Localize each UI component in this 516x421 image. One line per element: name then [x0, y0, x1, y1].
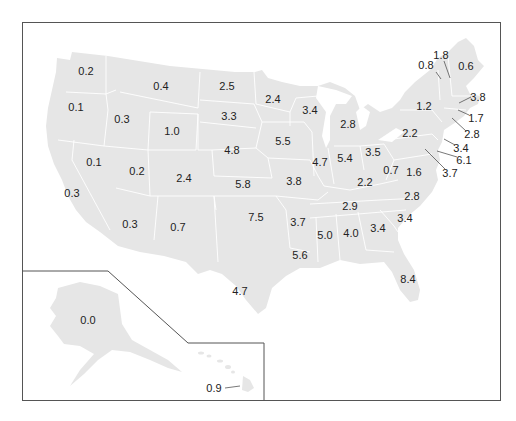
state-label-mt: 0.4 — [153, 81, 168, 92]
alaska-shape — [50, 282, 182, 386]
state-label-pa: 2.2 — [402, 128, 417, 139]
state-label-or: 0.1 — [68, 102, 83, 113]
state-label-la: 5.6 — [292, 250, 307, 261]
state-label-wv: 0.7 — [383, 165, 398, 176]
state-label-va: 1.6 — [406, 167, 421, 178]
state-label-ri: 1.7 — [468, 113, 483, 124]
state-label-ct: 2.8 — [464, 129, 479, 140]
state-label-ga: 3.4 — [370, 223, 385, 234]
state-label-de: 6.1 — [456, 155, 471, 166]
state-label-nv: 0.1 — [86, 157, 101, 168]
state-label-wi: 3.4 — [302, 105, 317, 116]
state-label-az: 0.3 — [122, 219, 137, 230]
state-label-ne: 4.8 — [224, 145, 239, 156]
state-label-ks: 5.8 — [235, 179, 250, 190]
state-label-ky: 2.2 — [357, 177, 372, 188]
state-label-nj: 3.4 — [453, 143, 468, 154]
state-label-oh: 3.5 — [365, 147, 380, 158]
state-label-vt: 0.8 — [418, 60, 433, 71]
state-label-mo: 3.8 — [286, 176, 301, 187]
state-label-wy: 1.0 — [164, 126, 179, 137]
state-label-nm: 0.7 — [170, 222, 185, 233]
state-label-id: 0.3 — [114, 114, 129, 125]
state-label-tx: 4.7 — [232, 286, 247, 297]
state-label-ma: 3.8 — [470, 92, 485, 103]
state-label-nh: 1.8 — [433, 50, 448, 61]
state-label-nc: 2.8 — [404, 191, 419, 202]
state-label-mi: 2.8 — [340, 119, 355, 130]
state-label-md: 3.7 — [442, 168, 457, 179]
state-label-me: 0.6 — [458, 61, 473, 72]
state-label-sc: 3.4 — [397, 213, 412, 224]
state-label-ut: 0.2 — [129, 166, 144, 177]
state-label-ar: 3.7 — [290, 217, 305, 228]
state-label-ms: 5.0 — [317, 230, 332, 241]
state-label-mn: 2.4 — [265, 94, 280, 105]
state-label-wa: 0.2 — [78, 66, 93, 77]
state-label-in: 5.4 — [337, 153, 352, 164]
state-label-ok: 7.5 — [248, 212, 263, 223]
state-label-ny: 1.2 — [416, 101, 431, 112]
state-label-hi: 0.9 — [206, 383, 221, 394]
state-label-il: 4.7 — [312, 157, 327, 168]
state-label-ia: 5.5 — [275, 136, 290, 147]
leader-line-hi — [225, 386, 240, 388]
state-label-co: 2.4 — [176, 173, 191, 184]
state-label-nd: 2.5 — [219, 81, 234, 92]
state-label-tn: 2.9 — [342, 201, 357, 212]
state-label-al: 4.0 — [343, 228, 358, 239]
state-label-fl: 8.4 — [400, 274, 415, 285]
state-label-ak: 0.0 — [80, 315, 95, 326]
state-label-sd: 3.3 — [221, 111, 236, 122]
state-label-ca: 0.3 — [64, 188, 79, 199]
